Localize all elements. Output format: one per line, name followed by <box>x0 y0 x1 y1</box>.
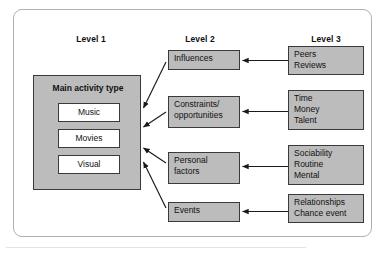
sub-node-visual[interactable]: Visual <box>58 155 120 174</box>
sub-node-movies[interactable]: Movies <box>58 129 120 148</box>
node-sociability-line-2: Routine <box>294 159 363 170</box>
node-events[interactable]: Events <box>168 202 240 222</box>
column-header-level-1: Level 1 <box>36 34 146 44</box>
node-constraints-line-2: opportunities <box>174 110 239 121</box>
node-peers-line-2: Reviews <box>294 60 363 71</box>
node-relations-line-2: Chance event <box>294 208 363 219</box>
node-time-money-talent[interactable]: Time Money Talent <box>288 90 364 130</box>
node-sociability-line-3: Mental <box>294 170 363 181</box>
node-constraints-line-1: Constraints/ <box>174 99 239 110</box>
node-sociability-line-1: Sociability <box>294 148 363 159</box>
node-peers-reviews[interactable]: Peers Reviews <box>288 46 364 75</box>
influence-diagram: Level 1 Level 2 Level 3 Main activity ty… <box>0 0 390 256</box>
node-influences-line-1: Influences <box>174 53 239 64</box>
node-peers-line-1: Peers <box>294 49 363 60</box>
node-time-line-1: Time <box>294 93 363 104</box>
node-events-line-1: Events <box>174 205 239 216</box>
main-activity-type-title: Main activity type <box>34 83 142 94</box>
node-main-activity-type[interactable]: Main activity type Music Movies Visual <box>33 75 141 190</box>
column-header-level-3: Level 3 <box>278 34 374 44</box>
node-influences[interactable]: Influences <box>168 50 240 70</box>
sub-node-music[interactable]: Music <box>58 103 120 122</box>
node-relations-line-1: Relationships <box>294 197 363 208</box>
node-sociability-routine-mental[interactable]: Sociability Routine Mental <box>288 145 364 185</box>
node-personal-line-1: Personal <box>174 155 239 166</box>
node-time-line-3: Talent <box>294 115 363 126</box>
column-header-level-2: Level 2 <box>155 34 245 44</box>
scan-artifact <box>6 247 306 248</box>
node-personal-factors[interactable]: Personal factors <box>168 152 240 184</box>
node-personal-line-2: factors <box>174 166 239 177</box>
node-relationships-chance-event[interactable]: Relationships Chance event <box>288 194 364 223</box>
node-constraints-opportunities[interactable]: Constraints/ opportunities <box>168 96 240 128</box>
node-time-line-2: Money <box>294 104 363 115</box>
